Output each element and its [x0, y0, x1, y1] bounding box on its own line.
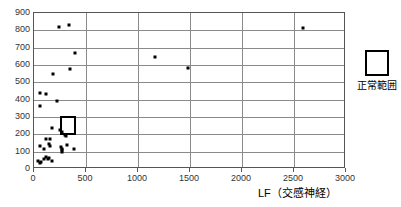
- gridline-horizontal: [34, 82, 344, 83]
- data-point: [56, 99, 59, 102]
- data-point: [50, 126, 53, 129]
- data-point: [72, 148, 75, 151]
- x-axis-tick-mark: [241, 168, 242, 172]
- gridline-vertical: [294, 13, 295, 167]
- data-point: [39, 145, 42, 148]
- x-axis-tick-mark: [189, 168, 190, 172]
- y-axis-tick-label: 400: [2, 94, 30, 103]
- plot-area: [33, 12, 345, 168]
- legend-label-normal-range: 正常範囲: [352, 80, 401, 91]
- data-point: [73, 52, 76, 55]
- x-axis-tick-mark: [293, 168, 294, 172]
- data-point: [45, 92, 48, 95]
- data-point: [39, 91, 42, 94]
- gridline-vertical: [190, 13, 191, 167]
- data-point: [51, 159, 54, 162]
- x-axis-tick-label: 2500: [283, 173, 303, 183]
- data-point: [40, 161, 43, 164]
- y-axis-tick-label: 100: [2, 146, 30, 155]
- gridline-horizontal: [34, 30, 344, 31]
- x-axis-tick-label: 2000: [231, 173, 251, 183]
- scatter-chart: 0100200300400500600700800900 05001000150…: [0, 0, 401, 207]
- y-axis-tick-label: 800: [2, 25, 30, 34]
- data-point: [64, 134, 67, 137]
- data-point: [48, 145, 51, 148]
- y-axis-tick-label: 700: [2, 42, 30, 51]
- x-axis-tick-label: 1000: [127, 173, 147, 183]
- y-axis-tick-label: 300: [2, 112, 30, 121]
- gridline-vertical: [86, 13, 87, 167]
- gridline-vertical: [242, 13, 243, 167]
- x-axis-tick-label: 1500: [179, 173, 199, 183]
- data-point: [48, 138, 51, 141]
- x-axis-tick-mark: [137, 168, 138, 172]
- data-point: [43, 148, 46, 151]
- data-point: [68, 67, 71, 70]
- normal-range-rectangle: [60, 116, 76, 135]
- gridline-horizontal: [34, 48, 344, 49]
- x-axis-tick-label: 500: [77, 173, 92, 183]
- data-point: [302, 27, 305, 30]
- legend-swatch-normal-range: [365, 50, 389, 76]
- data-point: [186, 66, 189, 69]
- legend: 正常範囲: [352, 50, 401, 91]
- data-point: [66, 143, 69, 146]
- data-point: [60, 150, 63, 153]
- x-axis-tick-mark: [345, 168, 346, 172]
- x-axis-tick-label: 0: [30, 173, 35, 183]
- data-point: [58, 26, 61, 29]
- data-point: [39, 105, 42, 108]
- gridline-horizontal: [34, 117, 344, 118]
- gridline-vertical: [138, 13, 139, 167]
- x-axis-tick-label: 3000: [335, 173, 355, 183]
- gridline-horizontal: [34, 152, 344, 153]
- gridline-horizontal: [34, 100, 344, 101]
- x-axis-tick-mark: [33, 168, 34, 172]
- y-axis-tick-label: 0: [2, 164, 30, 173]
- data-point: [153, 56, 156, 59]
- y-axis-tick-label: 600: [2, 60, 30, 69]
- x-axis-tick-mark: [85, 168, 86, 172]
- data-point: [52, 73, 55, 76]
- x-axis-title: LF（交感神経）: [258, 184, 337, 200]
- y-axis-tick-label: 200: [2, 129, 30, 138]
- y-axis-tick-label: 500: [2, 77, 30, 86]
- gridline-horizontal: [34, 134, 344, 135]
- y-axis-tick-labels: 0100200300400500600700800900: [0, 12, 30, 168]
- data-point: [67, 23, 70, 26]
- y-axis-tick-label: 900: [2, 8, 30, 17]
